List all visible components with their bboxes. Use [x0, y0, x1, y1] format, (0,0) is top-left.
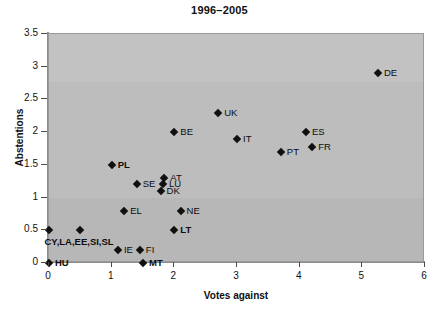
y-axis-tick [41, 262, 47, 263]
data-point-group-label: CY,LA,EE,SI,SL [45, 236, 114, 247]
data-point-label: ES [312, 127, 325, 137]
data-point-label: UK [224, 108, 237, 118]
data-point-marker [132, 180, 140, 188]
data-point-label: IE [124, 245, 133, 255]
data-point-label: IT [243, 134, 251, 144]
data-point-label: NE [187, 206, 200, 216]
data-point-label: SE [143, 179, 156, 189]
data-point-label: FR [318, 142, 331, 152]
x-axis-tick [361, 262, 362, 267]
x-axis-tick [424, 262, 425, 267]
x-axis-tick [236, 262, 237, 267]
data-point-marker [156, 187, 164, 195]
x-axis-tick [299, 262, 300, 267]
data-point-label: EL [130, 206, 142, 216]
x-axis-tick-label: 1 [96, 270, 126, 281]
x-axis-tick [173, 262, 174, 267]
data-point-marker [302, 128, 310, 136]
y-axis-tick [41, 131, 47, 132]
data-point-label: BE [180, 127, 193, 137]
chart-title: 1996–2005 [0, 4, 439, 16]
scatter-chart-figure: 1996–2005 HUIEFIMTELLTNESEDKLUATPLBEUKIT… [0, 0, 439, 321]
y-axis-tick [41, 66, 47, 67]
x-axis-title: Votes against [48, 290, 424, 301]
y-axis-tick-label: 3.5 [4, 28, 38, 38]
y-axis-title: Abstentions [14, 68, 25, 208]
data-point-label: PT [287, 147, 299, 157]
data-point-label: LT [180, 225, 191, 235]
plot-background-band-upper [49, 34, 423, 82]
x-axis-tick-label: 4 [284, 270, 314, 281]
x-axis-tick-label: 3 [221, 270, 251, 281]
plot-background-band-lower [49, 198, 423, 261]
y-axis-tick-label: 0.5 [4, 224, 38, 234]
y-axis-tick [41, 229, 47, 230]
y-axis-tick [41, 164, 47, 165]
data-point-marker [277, 148, 285, 156]
data-point-marker [170, 128, 178, 136]
x-axis-tick [48, 262, 49, 267]
x-axis-tick-label: 5 [346, 270, 376, 281]
data-point-marker [233, 134, 241, 142]
x-axis-tick [111, 262, 112, 267]
data-point-marker [107, 161, 115, 169]
data-point-marker [308, 142, 316, 150]
data-point-label: PL [118, 160, 130, 170]
y-axis-tick [41, 197, 47, 198]
data-point-marker [214, 108, 222, 116]
x-axis-tick-label: 6 [409, 270, 439, 281]
data-point-label: AT [170, 173, 181, 183]
x-axis-tick-label: 0 [33, 270, 63, 281]
data-point-label: MT [149, 258, 163, 268]
x-axis-tick-label: 2 [158, 270, 188, 281]
data-point-label: FI [146, 245, 154, 255]
data-point-label: DE [384, 68, 397, 78]
plot-area: HUIEFIMTELLTNESEDKLUATPLBEUKITPTESFRDE C… [48, 33, 424, 262]
data-point-label: HU [55, 258, 69, 268]
y-axis-tick [41, 98, 47, 99]
y-axis-tick [41, 33, 47, 34]
y-axis-tick-label: 0 [4, 257, 38, 267]
